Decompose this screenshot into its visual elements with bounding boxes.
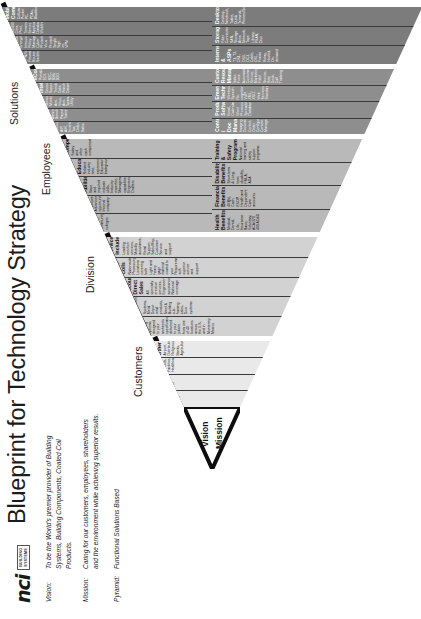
apex-mission-label: Mission [214,417,224,449]
pyramid-cell-body: Medical, Dental, Life, Insurance Basic, … [227,212,261,230]
pyramid-cell-body: Nationwide Processing Locations covering… [128,260,199,275]
pyramid-cell-body: Email, Calendar, Word Processing, Spread… [227,105,252,116]
pyramid-cell[interactable]: Coated Steel CoilsNationwide Processing … [106,257,317,277]
tier-cell-row: Design to Spec Building SystemsComplete … [106,237,317,336]
pyramid-cell[interactable]: HR Information SystemAdministration, Ben… [30,108,212,121]
tier-cell-row: RecruitmentCoordinated efforts via inter… [62,139,212,232]
pyramid-cell-body: Airport, Distribution, Religious, Banks,… [163,343,184,356]
pyramid-cell[interactable]: Systems/Security ManagementNetwork Monit… [30,95,212,108]
pyramid-cell-body: Structural Studs, Joists, Components / S… [122,299,193,314]
pyramid-cell-body: Manufacturing, High-tech [163,377,176,389]
rotated-page-wrapper: nci BUILDING SYSTEMS Blueprint for Techn… [0,0,421,619]
pyramid-cell[interactable]: Health BenefitsMedical, Dental, Life, In… [212,209,362,232]
pyramid-cell-body: 401(k), Cash ESOP, Health and Dependent … [227,189,256,207]
pyramid-cell[interactable]: Content / Doc ManagementImaging, Documen… [212,118,394,134]
tier-cell-row: CommercialOffice, Retail, Multi-familyIn… [154,341,270,407]
pyramid-cell-heading: Recruitment [64,216,70,230]
blueprint-page: nci BUILDING SYSTEMS Blueprint for Techn… [0,0,421,619]
tier-label-solutions: Solutions [8,82,20,125]
pyramid-cell[interactable]: Training & Safety ProgramsNational train… [212,139,362,162]
pyramid-cell-heading: Commercial [156,394,162,406]
pyramid-cell-heading: Productivity Software [214,105,226,116]
pyramid-cell[interactable]: Internet & ASPsT1, T3, DS1, DS3, OC3, Ca… [212,45,421,64]
tier-cell-row: Internet & ASPsT1, T3, DS1, DS3, OC3, Ca… [212,7,421,64]
vision-label: Vision: [44,569,74,602]
pyramid-cell-body: Network Monitoring, Anti-Virus, Anti-Spa… [45,98,74,106]
logo-tagline-line1: BUILDING [19,548,23,567]
pyramid-cell[interactable]: Enterprise Resource PlanningFinancial, A… [30,121,212,134]
pyramid-cell-body: Sales Force Automation, Customer Service… [233,71,283,83]
pyramid-cell[interactable]: Financial Benefits401(k), Cash ESOP, Hea… [212,186,362,209]
pyramid-cell[interactable]: Career GrowthPromote total fulfilling em… [62,195,212,214]
pyramid-cell[interactable]: Server/OSAS/400, Citrix, Print, Terminal… [2,21,212,35]
pyramid-cell[interactable]: Desktop/LaptopDesktop, Notebook, Tablet,… [212,7,421,26]
tier-cell-row: Content / Doc ManagementImaging, Documen… [212,69,394,134]
pyramid-cell-body: SPAM/Virus Protection, Encryption, Intru… [11,39,70,48]
tier-band-division: Design to Spec Building SystemsComplete … [106,237,317,336]
pyramid-apex: VisionMission [184,407,240,469]
pyramid-diagram: CustomersCommercialOffice, Retail, Multi… [6,4,418,469]
pyramid-cell[interactable]: Experience & EducationRelated industry t… [62,158,212,177]
tier-band-customers: CommercialOffice, Retail, Multi-familyIn… [154,341,270,407]
pyramid-cell[interactable]: Business IntelligenceDecision Support, T… [30,82,212,95]
pyramid-cell-body: Related industry time, experience, Educa… [83,161,108,175]
pyramid-cell-heading: Experience & Education [64,161,82,175]
pyramid-cell-body: Salary and other cash compensation [71,141,92,156]
pyramid-cell[interactable]: eCommercePortals, EDI, B2C, B2B, B2G [30,69,212,82]
pyramid-cell[interactable]: Services IncludeLeading erection service… [106,237,317,257]
pyramid-cell-body: Coordinated efforts via internet, local … [71,216,109,230]
pyramid-cell[interactable]: Disability BenefitsShort-term & Long-ter… [212,162,362,185]
logo-tagline-line2: SYSTEMS [24,548,28,567]
pyramid-cell-heading: Industrial [156,377,162,389]
pyramid-cell-heading: Network [4,53,10,62]
apex-triangle-shape [184,407,240,469]
pyramid-cell[interactable]: Building ComponentsStructural Studs, Joi… [106,296,317,316]
pyramid-cell-heading: Emerging Technologies [214,88,226,99]
pyramid-cell[interactable]: NetworkCopper/Fiber Cabling, Wi-Fi, VPN/… [2,50,212,64]
tier-label-customers: Customers [132,346,144,397]
pyramid-cell-heading: Internet & ASPs [214,48,232,62]
pyramid-cell[interactable]: OtherAirport, Distribution, Religious, B… [154,341,270,358]
mission-label: Mission: [81,569,101,602]
pyramid-cell-body: AS/400, Citrix, Print, Terminal Server, … [11,24,45,33]
pyramid-cell[interactable]: SecuritySPAM/Virus Protection, Encryptio… [2,36,212,50]
pyramid-cell[interactable]: Storage/BackupFiber Connected SAN, Stora… [212,26,421,45]
pyramid-label: Pyramid: [112,569,122,602]
pyramid-cell-heading: Disability Benefits [214,165,226,183]
pyramid-cell-heading: Storage/Backup [214,29,220,43]
pyramid-cell-heading: Career Growth [64,198,76,212]
pyramid-cell[interactable]: Productivity SoftwareEmail, Calendar, Wo… [212,102,394,118]
tier-band-infrastructure: NetworkCopper/Fiber Cabling, Wi-Fi, VPN/… [2,7,421,64]
logo-wordmark: nci [14,575,33,603]
pyramid-cell-body: Base and required indicate skills, Indus… [89,179,135,193]
pyramid-cell[interactable]: Emerging TechnologiesWireless, Speech Re… [212,85,394,101]
pyramid-cell-body: National training and safety support pro… [239,141,260,160]
pyramid-cell[interactable]: Mobile CommunicationsCellular, Pocket PC… [2,7,212,21]
pyramid-cell[interactable]: Knowledge, Skills & AbilitiesBase and re… [62,176,212,195]
pyramid-cell-heading: Health Benefits [214,212,226,230]
pyramid-cell-heading: Desktop/Laptop [214,9,220,24]
tier-label-employees: Employees [40,143,52,195]
pyramid-cell-heading: Systems/Security Management [32,98,44,106]
pyramid-cell-body: Desktop, Notebook, Tablet, Dumb Terminal… [221,9,246,24]
pyramid-cell-heading: Financial Benefits [214,189,226,207]
pyramid-cell-body: Portals, EDI, B2C, B2B, B2G [39,71,60,80]
apex-vision-label: Vision [200,422,210,447]
pyramid-cell-body: T1, T3, DS1, DS3, OC3, Cable, DSL, Frame… [233,48,279,62]
pyramid-cell[interactable]: CompensationSalary and other cash compen… [62,139,212,158]
pyramid-cell-heading: Government [156,361,162,373]
pyramid-cell[interactable]: Customer Resource ManagementSales Force … [212,69,394,85]
pyramid-cell-body: Financial, Accounting, A/P, A/R, Invento… [51,124,85,132]
pyramid-cell-heading: Knowledge, Skills & Abilities [64,179,88,193]
pyramid-cell-heading: Building Components [108,299,120,314]
pyramid-cell-heading: Content / Doc Management [214,121,238,132]
logo-tagline: BUILDING SYSTEMS [17,545,31,570]
pyramid-cell[interactable]: IndustrialManufacturing, High-tech [154,374,270,391]
pyramid-cell[interactable]: Design to Spec Building SystemsComplete … [106,316,317,336]
pyramid-cell[interactable]: Builder Network Corp. Accounts Direct Sa… [106,277,317,297]
pyramid-cell[interactable]: RecruitmentCoordinated efforts via inter… [62,213,212,232]
pyramid-cell-heading: Server/OS [4,24,10,33]
pyramid-cell-body: Wireless, Speech Re-cognition, VoIP, XML… [227,88,269,99]
pyramid-cell[interactable]: GovernmentSchools, Facilities, Healthcar… [154,358,270,375]
pyramid-cell[interactable]: CommercialOffice, Retail, Multi-family [154,391,270,408]
